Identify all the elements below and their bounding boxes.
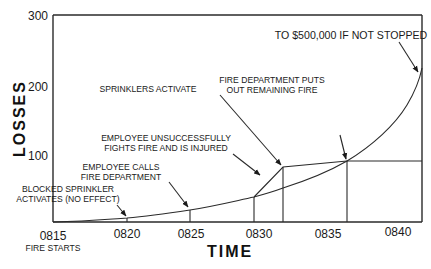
annotation-sprinklers-activate: SPRINKLERS ACTIVATE [99, 84, 196, 94]
annotation-employee-fights-line2: FIGHTS FIRE AND IS INJURED [104, 143, 228, 153]
x-tick-0840: 0840 [385, 225, 412, 239]
annotation-employee-calls-line1: EMPLOYEE CALLS [83, 162, 160, 172]
x-axis-title: TIME [207, 243, 253, 260]
x-tick-0820: 0820 [114, 227, 141, 241]
y-tick-100: 100 [28, 149, 48, 163]
arrow-not-stopped [399, 42, 418, 72]
x-tick-0825: 0825 [178, 227, 205, 241]
x-tick-0835: 0835 [315, 227, 342, 241]
arrow-employee-fights [233, 154, 260, 175]
y-tick-200: 200 [28, 80, 48, 94]
annotation-not-stopped: TO $500,000 IF NOT STOPPED [275, 29, 428, 41]
annotation-blocked-sprinkler-line1: BLOCKED SPRINKLER [22, 184, 114, 194]
x-tick-0815: 0815 [40, 229, 67, 243]
annotation-fire-department-line2: OUT REMAINING FIRE [226, 85, 317, 95]
y-tick-300: 300 [28, 9, 48, 23]
fire-loss-chart: 300 200 100 LOSSES 0815 0820 0825 0830 0… [0, 0, 431, 269]
arrow-fire-department [340, 135, 346, 159]
annotation-employee-calls-line2: FIRE DEPARTMENT [81, 172, 162, 182]
x-tick-0830: 0830 [246, 227, 273, 241]
y-tick-labels: 300 200 100 [28, 9, 48, 163]
annotations: BLOCKED SPRINKLER ACTIVATES (NO EFFECT) … [16, 29, 427, 216]
arrow-blocked-sprinkler [117, 205, 126, 216]
arrow-employee-calls [169, 182, 188, 207]
annotation-employee-fights-line1: EMPLOYEE UNSUCCESSFULLY [101, 133, 231, 143]
y-axis-title: LOSSES [11, 80, 28, 157]
fire-starts-label: FIRE STARTS [25, 243, 80, 253]
annotation-fire-department-line1: FIRE DEPARTMENT PUTS [219, 75, 325, 85]
vertical-markers [127, 161, 347, 222]
arrow-sprinklers-activate [220, 95, 281, 165]
annotation-blocked-sprinkler-line2: ACTIVATES (NO EFFECT) [16, 194, 119, 204]
